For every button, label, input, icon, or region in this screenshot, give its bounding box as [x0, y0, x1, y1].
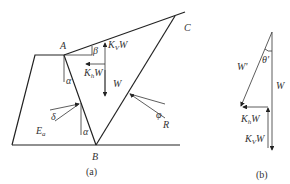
point-b-label: B [92, 151, 98, 162]
point-a-label: A [59, 40, 67, 51]
w-label: W [113, 78, 123, 89]
point-c-label: C [184, 22, 191, 33]
caption-a: (a) [86, 166, 97, 178]
khw-label: KhW [83, 67, 104, 80]
kvw-label-b: KVW [244, 133, 266, 146]
caption-b: (b) [256, 169, 268, 181]
alpha-bottom-label: α [83, 126, 89, 137]
phi-label: φ [156, 109, 162, 120]
beta-label: β [92, 45, 98, 56]
w-label-b: W [276, 80, 286, 91]
theta-label: θ' [262, 54, 270, 65]
delta-label: δ [51, 111, 56, 122]
r-label: R [162, 119, 169, 130]
alpha-top-label: α [66, 75, 72, 86]
theta-arc [265, 49, 272, 51]
kvw-label: KVW [107, 39, 129, 52]
phi-ref [130, 94, 165, 104]
wedge-force-diagram: A B C α α β δ φ KVW KhW W Ea R (a) θ' W'… [0, 0, 290, 184]
figure-a: A B C α α β δ φ KVW KhW W Ea R (a) [12, 12, 191, 178]
w-prime-label: W' [237, 61, 248, 72]
figure-b: θ' W' W KhW KVW (b) [237, 32, 286, 181]
khw-label-b: KhW [240, 113, 261, 126]
ea-label: Ea [35, 125, 46, 138]
